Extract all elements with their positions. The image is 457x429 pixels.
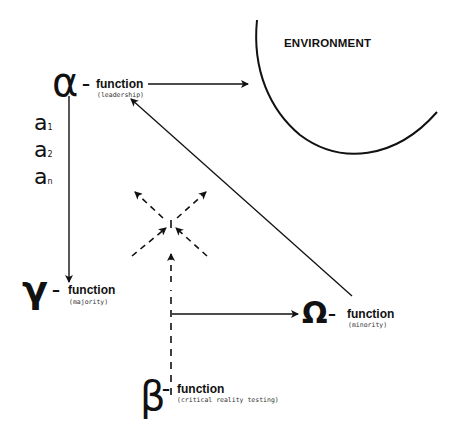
omega-sublabel: (minority)	[348, 322, 387, 329]
edge-lowright-center	[176, 228, 207, 256]
gamma-dash: –	[52, 282, 60, 298]
edge-center-upright	[177, 192, 206, 218]
alpha-dash: –	[82, 76, 90, 92]
beta-label: function	[177, 383, 224, 395]
alpha-sublabel: (leadership)	[97, 92, 144, 99]
alpha-member-n: an	[34, 166, 53, 193]
alpha-label: function	[96, 78, 143, 90]
omega-label: function	[347, 308, 394, 320]
edge-lowleft-center	[132, 228, 166, 256]
beta-dash: –	[162, 381, 170, 397]
beta-sublabel: (critical reality testing)	[177, 397, 279, 404]
gamma-sublabel: (majority)	[69, 299, 108, 306]
alpha-members-list: a1 a2 an	[34, 112, 53, 193]
gamma-symbol: γ	[22, 270, 48, 308]
omega-dash: –	[328, 306, 336, 322]
alpha-member-2: a2	[34, 139, 53, 166]
gamma-label: function	[68, 284, 115, 296]
edge-center-upleft	[135, 192, 163, 218]
environment-label: ENVIRONMENT	[284, 37, 371, 49]
alpha-symbol: α	[52, 62, 78, 102]
edge-omega-alpha	[131, 99, 352, 296]
alpha-member-1: a1	[34, 112, 53, 139]
omega-symbol: Ω	[302, 298, 328, 328]
